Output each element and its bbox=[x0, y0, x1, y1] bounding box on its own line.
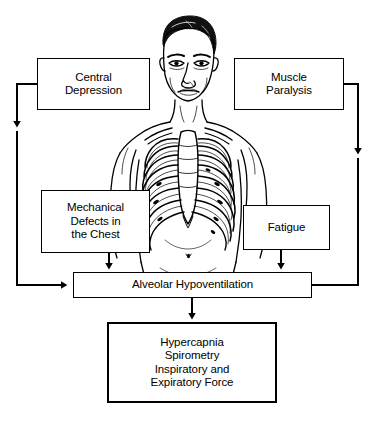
node-muscle-paralysis-label: Muscle Paralysis bbox=[266, 71, 312, 98]
node-alveolar-hypoventilation-label: Alveolar Hypoventilation bbox=[132, 278, 253, 292]
node-fatigue-label: Fatigue bbox=[268, 221, 306, 235]
edge-central-to-alveolar-upper bbox=[17, 84, 37, 124]
edge-muscle-to-alveolar-upper bbox=[344, 84, 358, 151]
node-central-depression[interactable]: Central Depression bbox=[37, 58, 150, 110]
node-mechanical-defects-label: Mechanical Defects in the Chest bbox=[67, 201, 124, 242]
node-outcome-findings-label: Hypercapnia Spirometry Inspiratory and E… bbox=[151, 336, 234, 390]
node-muscle-paralysis[interactable]: Muscle Paralysis bbox=[234, 58, 344, 110]
node-central-depression-label: Central Depression bbox=[65, 71, 122, 98]
diagram-canvas: Central Depression Muscle Paralysis Mech… bbox=[0, 0, 376, 423]
node-fatigue[interactable]: Fatigue bbox=[243, 205, 330, 250]
node-mechanical-defects-in-the-chest[interactable]: Mechanical Defects in the Chest bbox=[41, 190, 150, 253]
node-alveolar-hypoventilation[interactable]: Alveolar Hypoventilation bbox=[73, 272, 312, 298]
node-outcome-findings[interactable]: Hypercapnia Spirometry Inspiratory and E… bbox=[107, 322, 277, 403]
